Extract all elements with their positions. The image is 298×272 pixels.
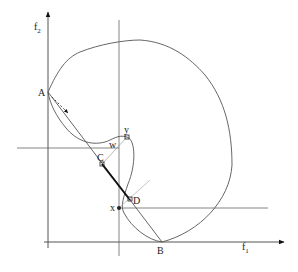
diagram-canvas: f2 f1 A B C D x y w xyxy=(0,0,298,272)
point-b-label: B xyxy=(157,245,164,256)
point-w-label: w xyxy=(109,139,117,150)
y-axis-label: f2 xyxy=(34,21,41,35)
x-axis-label: f1 xyxy=(242,241,249,255)
point-x-marker xyxy=(117,206,121,210)
point-d-label: D xyxy=(133,195,140,206)
point-x-label: x xyxy=(110,202,115,213)
point-a-label: A xyxy=(38,87,46,98)
point-c-label: C xyxy=(97,152,104,163)
segment-c-d xyxy=(102,164,130,200)
feasible-region-boundary xyxy=(48,40,232,242)
point-y-label: y xyxy=(124,124,129,135)
